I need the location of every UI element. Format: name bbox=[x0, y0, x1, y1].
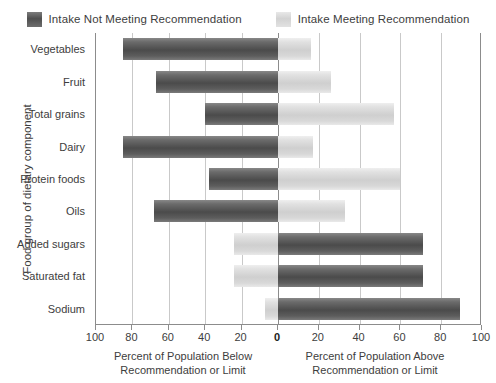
bar-segment-meeting bbox=[234, 233, 278, 255]
bar-segment-not-meeting bbox=[278, 265, 423, 287]
x-axis-caption-left: Percent of Population Below Recommendati… bbox=[88, 350, 278, 377]
bar-segment-meeting bbox=[265, 298, 278, 320]
x-axis-tick-label: 80 bbox=[125, 331, 137, 343]
bar-segment-not-meeting bbox=[156, 71, 278, 93]
x-axis-caption-left-line2: Recommendation or Limit bbox=[120, 364, 245, 376]
bar-row bbox=[96, 265, 480, 287]
bar-row bbox=[96, 200, 480, 222]
x-axis-tick bbox=[359, 325, 360, 330]
legend-swatch-not-meeting-icon bbox=[27, 12, 42, 27]
x-axis-tick bbox=[481, 325, 482, 330]
x-axis-tick-label: 60 bbox=[162, 331, 174, 343]
x-axis-tick-label: 80 bbox=[434, 331, 446, 343]
y-axis: Food group of dietary component Vegetabl… bbox=[0, 33, 92, 325]
legend-entry-not-meeting: Intake Not Meeting Recommendation bbox=[27, 12, 242, 27]
x-axis-tick-label: 0 bbox=[274, 331, 280, 343]
y-axis-label: Saturated fat bbox=[22, 270, 85, 282]
bar-segment-meeting bbox=[278, 200, 345, 222]
chart-legend: Intake Not Meeting Recommendation Intake… bbox=[0, 9, 496, 29]
bar-row bbox=[96, 136, 480, 158]
legend-entry-meeting: Intake Meeting Recommendation bbox=[276, 12, 470, 27]
bar-row bbox=[96, 233, 480, 255]
y-axis-label: Fruit bbox=[63, 76, 85, 88]
y-axis-label: Sodium bbox=[48, 303, 85, 315]
bar-segment-not-meeting bbox=[278, 298, 460, 320]
chart-container: Intake Not Meeting Recommendation Intake… bbox=[0, 0, 496, 383]
x-axis-tick-label: 100 bbox=[472, 331, 490, 343]
y-axis-label: Dairy bbox=[59, 141, 85, 153]
x-axis-tick bbox=[318, 325, 319, 330]
x-axis-tick bbox=[95, 325, 96, 330]
x-axis-tick-label: 40 bbox=[198, 331, 210, 343]
y-axis-label: Oils bbox=[66, 205, 85, 217]
bar-row bbox=[96, 103, 480, 125]
x-axis-tick bbox=[168, 325, 169, 330]
x-axis-tick bbox=[131, 325, 132, 330]
x-axis-tick-label: 100 bbox=[86, 331, 104, 343]
bar-segment-meeting bbox=[278, 136, 313, 158]
x-axis-tick bbox=[204, 325, 205, 330]
bar-segment-meeting bbox=[278, 103, 394, 125]
x-axis-tick bbox=[277, 325, 278, 330]
bar-segment-meeting bbox=[278, 71, 331, 93]
bar-segment-meeting bbox=[234, 265, 278, 287]
x-axis-caption-right-line1: Percent of Population Above bbox=[306, 350, 445, 362]
legend-swatch-meeting-icon bbox=[276, 12, 291, 27]
x-axis-caption-left-line1: Percent of Population Below bbox=[114, 350, 252, 362]
x-axis-tick-label: 60 bbox=[393, 331, 405, 343]
y-axis-label: Protein foods bbox=[20, 173, 85, 185]
y-axis-label: Total grains bbox=[29, 108, 85, 120]
bar-row bbox=[96, 168, 480, 190]
x-axis-tick bbox=[241, 325, 242, 330]
x-axis-caption-right-line2: Recommendation or Limit bbox=[312, 364, 437, 376]
bar-row bbox=[96, 298, 480, 320]
bar-segment-meeting bbox=[278, 38, 311, 60]
y-axis-label: Added sugars bbox=[17, 238, 85, 250]
legend-label-meeting: Intake Meeting Recommendation bbox=[298, 13, 470, 25]
bar-segment-not-meeting bbox=[123, 38, 278, 60]
x-axis-tick-label: 40 bbox=[352, 331, 364, 343]
bar-segment-not-meeting bbox=[154, 200, 278, 222]
x-axis-tick bbox=[440, 325, 441, 330]
x-axis-tick-labels: 10080604020020406080100 bbox=[0, 331, 496, 347]
legend-label-not-meeting: Intake Not Meeting Recommendation bbox=[49, 13, 242, 25]
bar-row bbox=[96, 38, 480, 60]
x-axis-tick-label: 20 bbox=[312, 331, 324, 343]
bar-segment-not-meeting bbox=[278, 233, 423, 255]
x-axis-tick-label: 20 bbox=[234, 331, 246, 343]
bar-segment-not-meeting bbox=[123, 136, 278, 158]
bar-rows bbox=[96, 33, 480, 324]
y-axis-label: Vegetables bbox=[31, 43, 85, 55]
plot-area bbox=[95, 33, 481, 325]
bar-segment-not-meeting bbox=[209, 168, 278, 190]
bar-row bbox=[96, 71, 480, 93]
bar-segment-meeting bbox=[278, 168, 400, 190]
x-axis-tick bbox=[399, 325, 400, 330]
bar-segment-not-meeting bbox=[205, 103, 278, 125]
x-axis-caption-right: Percent of Population Above Recommendati… bbox=[280, 350, 470, 377]
